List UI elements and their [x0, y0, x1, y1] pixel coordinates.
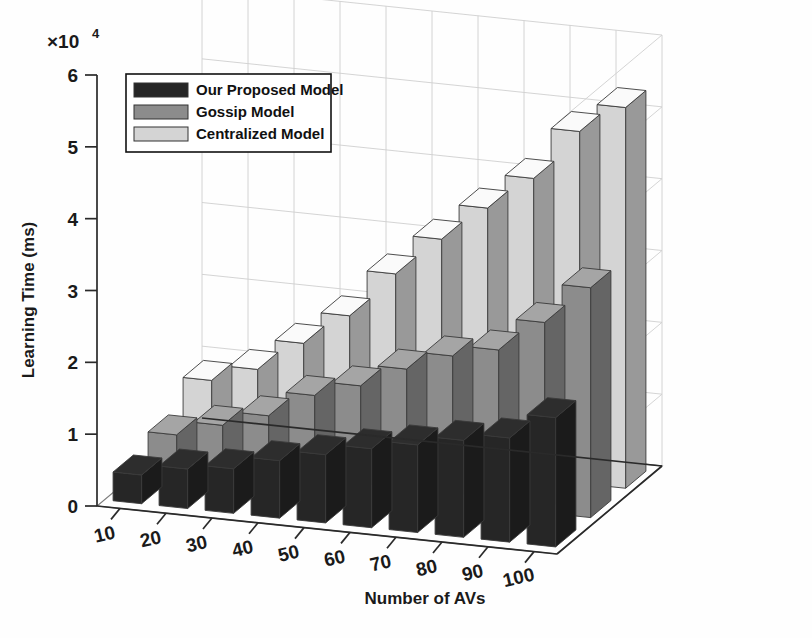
x-tick-label-20: 20 — [138, 526, 163, 551]
y-axis-title: Learning Time (ms) — [19, 222, 38, 379]
bar-our-proposed-model-100-side — [556, 401, 576, 547]
y-tick-label-0: 0 — [67, 496, 78, 517]
x-tick-label-30: 30 — [184, 531, 209, 556]
x-tick-label-60: 60 — [322, 545, 347, 570]
x-tick-label-80: 80 — [414, 555, 439, 580]
x-tick-label-70: 70 — [368, 550, 393, 575]
y-axis-title-text: Learning Time (ms) — [19, 222, 38, 379]
x-tick-30 — [203, 518, 212, 529]
x-tick-40 — [249, 523, 258, 534]
bar-our-proposed-model-100-front — [527, 415, 556, 547]
legend-label-1: Gossip Model — [196, 103, 294, 120]
x-tick-label-100: 100 — [501, 563, 537, 591]
x-tick-label-40: 40 — [230, 536, 255, 561]
x-tick-50 — [295, 528, 304, 539]
x-tick-label-90: 90 — [460, 560, 485, 585]
legend-label-2: Centralized Model — [196, 125, 324, 142]
x-tick-90 — [479, 547, 488, 558]
legend-swatch-2 — [134, 127, 188, 141]
x-axis-title: Number of AVs — [365, 589, 486, 608]
y-axis-exponent-base: ×10 — [47, 31, 79, 52]
bar-our-proposed-model-90-front — [481, 435, 510, 542]
x-axis-title-text: Number of AVs — [365, 589, 486, 608]
x-tick-20 — [157, 513, 166, 524]
y-tick-label-3: 3 — [67, 281, 78, 302]
bar-our-proposed-model-10-front — [113, 472, 142, 504]
x-tick-100 — [525, 552, 534, 563]
figure-canvas: 0123456102030405060708090100 Learning Ti… — [0, 0, 812, 638]
x-tick-10 — [111, 508, 120, 519]
y-tick-label-6: 6 — [67, 65, 78, 86]
bar-our-proposed-model-40-front — [251, 458, 280, 518]
x-tick-label-10: 10 — [92, 521, 117, 546]
bar-our-proposed-model-50-front — [297, 452, 326, 523]
bar-our-proposed-model-70-side — [418, 428, 438, 533]
y-tick-label-4: 4 — [67, 209, 78, 230]
bar-our-proposed-model-80-side — [464, 423, 484, 537]
x-tick-70 — [387, 537, 396, 548]
bars-layer — [113, 88, 646, 547]
bar-gossip-model-100-side — [591, 271, 611, 518]
y-axis-exponent-superscript: 4 — [92, 26, 100, 41]
legend-swatch-1 — [134, 105, 188, 119]
chart-legend: Our Proposed ModelGossip ModelCentralize… — [126, 74, 344, 152]
bar-our-proposed-model-60-front — [343, 446, 372, 528]
bar-our-proposed-model-30-front — [205, 466, 234, 514]
legend-swatch-0 — [134, 83, 188, 97]
three-d-bar-chart: 0123456102030405060708090100 Learning Ti… — [0, 0, 812, 638]
bar-our-proposed-model-20-front — [159, 466, 188, 508]
bar-our-proposed-model-80-front — [435, 437, 464, 537]
x-tick-label-50: 50 — [276, 541, 301, 566]
x-tick-80 — [433, 542, 442, 553]
bar-our-proposed-model-90-side — [510, 421, 530, 542]
legend-label-0: Our Proposed Model — [196, 81, 344, 98]
y-tick-label-5: 5 — [67, 137, 78, 158]
x-tick-60 — [341, 532, 350, 543]
y-axis-exponent: ×10 4 — [47, 26, 100, 52]
bar-centralized-model-100-side — [626, 91, 646, 489]
bar-our-proposed-model-70-front — [389, 442, 418, 533]
y-tick-label-2: 2 — [67, 352, 78, 373]
y-tick-label-1: 1 — [67, 424, 78, 445]
